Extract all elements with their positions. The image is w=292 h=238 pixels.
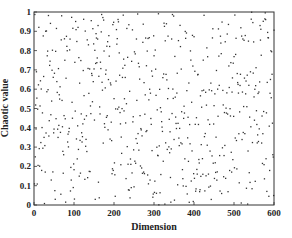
data-point <box>61 15 62 16</box>
data-point <box>84 179 85 180</box>
data-point <box>141 129 142 130</box>
data-point <box>57 92 58 93</box>
data-point <box>173 98 174 99</box>
data-point <box>35 128 36 129</box>
data-point <box>66 36 67 37</box>
y-tick-label: 0.9 <box>20 26 32 36</box>
data-point <box>220 36 221 37</box>
data-point <box>241 139 242 140</box>
data-point <box>240 74 241 75</box>
data-point <box>213 123 214 124</box>
data-point <box>107 129 108 130</box>
data-point <box>86 115 87 116</box>
data-point <box>35 104 36 105</box>
data-point <box>155 49 156 50</box>
data-point <box>249 116 250 117</box>
data-point <box>246 106 247 107</box>
data-point <box>221 21 222 22</box>
data-point <box>119 75 120 76</box>
data-point <box>137 133 138 134</box>
data-point <box>74 62 75 63</box>
data-point <box>149 37 150 38</box>
data-point <box>207 119 208 120</box>
data-point <box>271 74 272 75</box>
data-point <box>182 169 183 170</box>
data-point <box>239 85 240 86</box>
data-point <box>201 107 202 108</box>
data-point <box>178 137 179 138</box>
data-point <box>146 65 147 66</box>
data-point <box>162 77 163 78</box>
data-point <box>157 155 158 156</box>
data-point <box>193 173 194 174</box>
data-point <box>75 110 76 111</box>
data-point <box>93 68 94 69</box>
data-point <box>195 191 196 192</box>
data-point <box>270 79 271 80</box>
data-point <box>41 127 42 128</box>
data-point <box>243 132 244 133</box>
data-point <box>120 164 121 165</box>
data-point <box>187 117 188 118</box>
data-point <box>243 40 244 41</box>
data-point <box>211 90 212 91</box>
data-point <box>204 136 205 137</box>
data-point <box>261 142 262 143</box>
data-point <box>62 151 63 152</box>
data-point <box>172 88 173 89</box>
data-point <box>191 180 192 181</box>
data-point <box>236 140 237 141</box>
data-point <box>107 41 108 42</box>
data-point <box>92 101 93 102</box>
data-point <box>230 115 231 116</box>
data-point <box>268 196 269 197</box>
data-point <box>246 188 247 189</box>
data-point <box>154 192 155 193</box>
data-point <box>263 111 264 112</box>
data-point <box>88 93 89 94</box>
data-point <box>245 93 246 94</box>
data-point <box>190 59 191 60</box>
data-point <box>257 134 258 135</box>
data-point <box>47 55 48 56</box>
data-point <box>215 137 216 138</box>
data-point <box>129 91 130 92</box>
data-point <box>163 161 164 162</box>
data-point <box>70 167 71 168</box>
data-point <box>218 55 219 56</box>
data-point <box>215 172 216 173</box>
data-point <box>125 178 126 179</box>
data-point <box>179 25 180 26</box>
data-point <box>136 38 137 39</box>
data-point <box>121 136 122 137</box>
data-point <box>254 89 255 90</box>
data-point <box>183 185 184 186</box>
y-tick-label: 0.1 <box>20 181 32 191</box>
data-point <box>258 91 259 92</box>
data-point <box>88 44 89 45</box>
data-point <box>125 77 126 78</box>
data-point <box>235 38 236 39</box>
data-point <box>149 89 150 90</box>
data-point <box>95 33 96 34</box>
data-point <box>58 68 59 69</box>
data-point <box>177 73 178 74</box>
data-point <box>185 186 186 187</box>
data-point <box>168 146 169 147</box>
data-point <box>193 201 194 202</box>
data-point <box>83 19 84 20</box>
data-point <box>228 24 229 25</box>
x-tick-label: 500 <box>227 208 241 218</box>
data-point <box>87 177 88 178</box>
data-point <box>235 137 236 138</box>
data-point <box>73 169 74 170</box>
data-point <box>105 74 106 75</box>
data-point <box>91 73 92 74</box>
data-point <box>205 175 206 176</box>
data-point <box>74 198 75 199</box>
data-point <box>227 113 228 114</box>
data-point <box>178 40 179 41</box>
data-point <box>123 110 124 111</box>
data-point <box>173 15 174 16</box>
data-point <box>174 199 175 200</box>
